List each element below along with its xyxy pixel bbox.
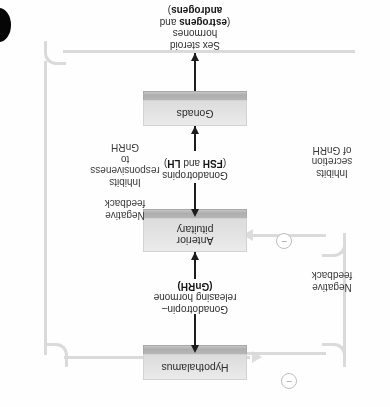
arrow-head-gonads-to-sex-steroids	[191, 53, 199, 61]
minus-badge-long-loop: −	[281, 373, 297, 389]
minus-badge-short-loop: −	[276, 233, 292, 249]
arrow-head-pituitary-to-gonads	[191, 209, 199, 217]
label-sex-steroids-androgens: androgens	[171, 5, 222, 16]
label-inhibits-secretion-line2: secretion	[312, 156, 353, 167]
arrow-head-gonadotropins-to-gonads	[191, 126, 199, 134]
label-negative-feedback-short-line2: feedback	[105, 198, 146, 209]
label-inhibits-secretion: Inhibits secretion of GnRH	[282, 144, 382, 179]
arrow-hypothalamus-to-pituitary	[194, 314, 196, 345]
label-negative-feedback-short: Negative feedback	[75, 198, 175, 221]
arrow-head-gnrh-to-pituitary	[191, 252, 199, 260]
feedback-loop-long-vertical	[44, 61, 47, 355]
diagram-page: − − Hypothalamus Anterior pituitary	[0, 0, 390, 407]
node-gonads-label: Gonads	[177, 107, 214, 118]
node-anterior-pituitary-face: Anterior pituitary	[143, 218, 247, 252]
label-gnrh-line1: Gonadotropin–	[162, 304, 228, 315]
node-hypothalamus-label: Hypothalamus	[161, 361, 228, 372]
label-negative-feedback-long-line1: Negative	[312, 282, 351, 293]
arrow-head-hypothalamus-to-pituitary	[191, 345, 199, 353]
node-gonads-edge	[143, 91, 247, 100]
label-inhibits-responsiveness-line3: to	[121, 154, 129, 165]
label-inhibits-responsiveness-line4: GnRH	[111, 142, 139, 153]
label-negative-feedback-long: Negative feedback	[282, 270, 382, 293]
label-sex-steroids: Sex steroid hormones (estrogens andandro…	[125, 5, 265, 51]
label-negative-feedback-long-line2: feedback	[312, 270, 353, 281]
feedback-loop-short-top	[244, 352, 326, 355]
minus-sign-short: −	[281, 236, 287, 246]
label-sex-steroids-line2: hormones	[173, 28, 217, 39]
label-sex-steroids-paren-close: )	[168, 5, 171, 16]
node-gonads-face: Gonads	[143, 100, 247, 126]
label-negative-feedback-short-line1: Negative	[105, 210, 144, 221]
label-gnrh-line3: (GnRH)	[178, 281, 213, 292]
arrow-gnrh-to-pituitary	[194, 252, 196, 279]
node-gonads: Gonads	[143, 91, 247, 126]
label-sex-steroids-estrogens: estrogens	[179, 17, 227, 28]
node-anterior-pituitary-label-line1: Anterior	[177, 235, 214, 247]
label-inhibits-responsiveness: Inhibits responsiveness to GnRH	[55, 142, 195, 188]
feedback-loop-long-corner-bottom	[44, 343, 68, 367]
arrow-gonads-to-sex-steroids	[194, 53, 196, 91]
label-gnrh-line2: releasing hormone	[154, 292, 237, 303]
feedback-loop-short-vertical	[343, 245, 346, 355]
label-sex-steroids-line1: Sex steroid	[170, 40, 220, 51]
label-inhibits-responsiveness-line2: responsiveness	[90, 165, 159, 176]
label-gonadotropins-paren-open: (	[223, 158, 226, 169]
label-sex-steroids-paren-open: (	[227, 17, 230, 28]
minus-sign-long: −	[286, 376, 292, 386]
label-inhibits-secretion-line3: of GnRH	[313, 145, 352, 156]
hpg-axis-figure: − − Hypothalamus Anterior pituitary	[0, 0, 390, 407]
label-gonadotropins-fsh: FSH	[203, 158, 223, 169]
label-inhibits-responsiveness-line1: Inhibits	[109, 177, 141, 188]
label-inhibits-secretion-line1: Inhibits	[316, 168, 348, 179]
feedback-loop-long-corner-right	[44, 41, 66, 65]
label-sex-steroids-and: and	[160, 17, 179, 28]
label-gnrh: Gonadotropin– releasing hormone (GnRH)	[130, 280, 260, 315]
node-hypothalamus-face: Hypothalamus	[143, 354, 247, 380]
node-anterior-pituitary-label-line2: pituitary	[177, 224, 214, 236]
